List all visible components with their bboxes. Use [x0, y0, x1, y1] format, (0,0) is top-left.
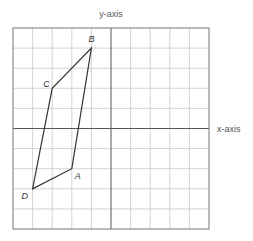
vertex-label-D: D: [22, 191, 29, 201]
quadrilateral-ABCD: [33, 48, 92, 189]
x-axis-label: x-axis: [217, 124, 241, 134]
vertex-label-C: C: [43, 79, 50, 89]
axes: [13, 28, 209, 229]
vertex-label-A: A: [74, 171, 81, 181]
coordinate-plane: ABCD y-axis x-axis: [0, 0, 253, 241]
y-axis-label: y-axis: [99, 9, 123, 19]
vertex-label-B: B: [88, 34, 94, 44]
